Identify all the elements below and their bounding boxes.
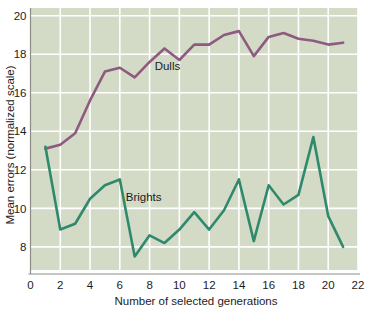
series-label-dulls: Dulls xyxy=(155,60,181,72)
x-axis-title: Number of selected generations xyxy=(114,295,277,307)
x-tick-label: 10 xyxy=(173,279,186,291)
x-tick-label: 22 xyxy=(352,279,365,291)
x-tick-label: 14 xyxy=(233,279,246,291)
x-tick-label: 16 xyxy=(262,279,275,291)
x-tick-label: 6 xyxy=(117,279,123,291)
chart-figure: 0246810121416182022 8101214161820 DullsB… xyxy=(0,0,368,311)
y-tick-label: 8 xyxy=(20,241,26,253)
x-tick-label: 18 xyxy=(292,279,305,291)
plot-area-background xyxy=(31,8,359,270)
x-tick-label: 12 xyxy=(203,279,216,291)
plot-background-group xyxy=(31,8,359,270)
x-tick-label: 20 xyxy=(322,279,335,291)
line-chart: 0246810121416182022 8101214161820 DullsB… xyxy=(0,0,368,311)
series-label-brights: Brights xyxy=(126,191,162,203)
y-axis-title: Mean errors (normalized scale) xyxy=(4,65,16,224)
x-tick-label: 4 xyxy=(87,279,94,291)
y-tick-label: 20 xyxy=(14,10,27,22)
x-tick-label: 8 xyxy=(146,279,152,291)
x-axis-tick-labels: 0246810121416182022 xyxy=(27,279,364,291)
x-tick-label: 2 xyxy=(57,279,63,291)
y-tick-label: 18 xyxy=(14,48,27,60)
x-tick-label: 0 xyxy=(27,279,33,291)
